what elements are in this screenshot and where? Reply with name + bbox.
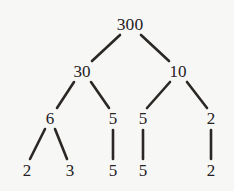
tree-node-l3: 3 [66, 162, 75, 179]
tree-edge-n6-l2 [30, 129, 45, 159]
tree-node-n6: 6 [46, 110, 55, 127]
tree-node-l5a: 5 [109, 162, 118, 179]
tree-node-n5b: 5 [139, 110, 148, 127]
tree-edge-n30-n6 [57, 82, 74, 108]
tree-edge-n300-n10 [141, 35, 169, 61]
tree-node-n2a: 2 [207, 110, 216, 127]
tree-edge-n10-n5b [147, 82, 170, 108]
tree-node-n300: 300 [117, 16, 144, 34]
tree-node-n30: 30 [73, 63, 90, 80]
tree-node-l5b: 5 [139, 162, 148, 179]
tree-edge-n6-l3 [55, 129, 67, 159]
tree-node-n10: 10 [169, 63, 186, 80]
tree-node-l2b: 2 [207, 162, 216, 179]
tree-edge-n30-n5a [91, 82, 109, 108]
tree-edge-n10-n2a [187, 82, 207, 108]
tree-edge-n300-n30 [92, 35, 120, 61]
factor-tree-diagram: 3003010655223552 [0, 0, 234, 191]
tree-node-n5a: 5 [109, 110, 118, 127]
tree-node-l2: 2 [23, 162, 32, 179]
